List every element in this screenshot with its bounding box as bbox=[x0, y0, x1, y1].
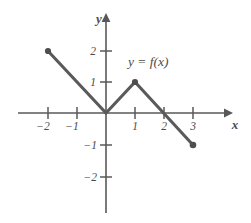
y-tick-label-minus2: −2 bbox=[83, 171, 97, 183]
y-axis-arrowhead bbox=[102, 13, 111, 22]
x-tick-label-minus2: −2 bbox=[36, 120, 50, 132]
x-tick-label-3: 3 bbox=[189, 120, 196, 132]
y-tick-label-2: 2 bbox=[90, 45, 96, 57]
graph-figure: −2 −1 1 2 3 2 1 −1 −2 x y y = f(x) bbox=[0, 0, 251, 223]
endpoint-marker-right bbox=[190, 142, 197, 149]
y-axis-label: y bbox=[94, 11, 102, 26]
x-tick-label-1: 1 bbox=[132, 120, 138, 132]
function-annotation-label: y = f(x) bbox=[126, 54, 169, 69]
coordinate-plot: −2 −1 1 2 3 2 1 −1 −2 x y y = f(x) bbox=[0, 0, 251, 223]
endpoint-marker-left bbox=[45, 48, 51, 54]
vertex-marker-peak bbox=[132, 79, 138, 85]
x-axis-label: x bbox=[231, 117, 239, 132]
y-tick-label-minus1: −1 bbox=[83, 139, 97, 151]
x-tick-label-minus1: −1 bbox=[65, 120, 79, 132]
x-tick-label-2: 2 bbox=[161, 120, 167, 132]
y-tick-label-1: 1 bbox=[90, 76, 96, 88]
